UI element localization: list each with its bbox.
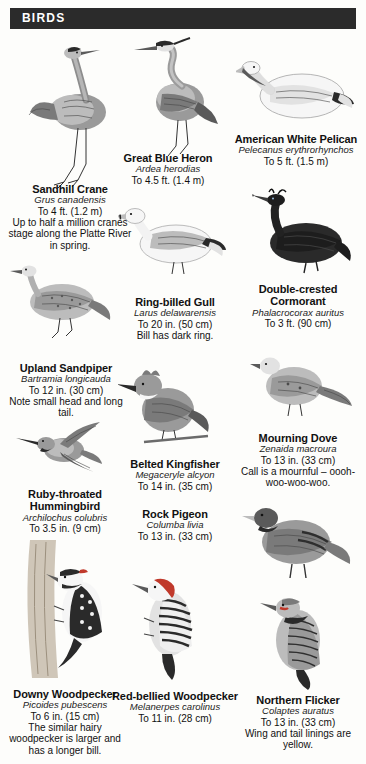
- scientific-name: Zenaida macroura: [232, 444, 364, 455]
- size-text: To 13 in. (33 cm): [232, 455, 364, 466]
- size-text: To 5 ft. (1.5 m): [228, 156, 364, 167]
- common-name: Ruby-throated Hummingbird: [2, 488, 128, 513]
- caption-ruby-throated-hummingbird: Ruby-throated Hummingbird Archilochus co…: [2, 488, 128, 534]
- great-blue-heron-illustration: [128, 36, 220, 158]
- belted-kingfisher-illustration: [118, 362, 222, 454]
- note-text: Note small head and long tail.: [2, 396, 130, 418]
- size-text: To 3 ft. (90 cm): [232, 318, 364, 329]
- size-text: To 4 ft. (1.2 m): [6, 206, 134, 217]
- caption-mourning-dove: Mourning Dove Zenaida macroura To 13 in.…: [232, 432, 364, 489]
- northern-flicker-illustration: [252, 586, 352, 692]
- size-text: To 13 in. (33 cm): [232, 717, 364, 728]
- mourning-dove-illustration: [248, 340, 354, 430]
- note-text: Call is a mournful – oooh-woo-woo-woo.: [232, 466, 364, 488]
- size-text: To 13 in. (33 cm): [112, 531, 238, 542]
- size-text: To 11 in. (28 cm): [112, 713, 238, 724]
- scientific-name: Columba livia: [112, 520, 238, 531]
- scientific-name: Bartramia longicauda: [2, 374, 130, 385]
- note-text: Wing and tail linings are yellow.: [232, 728, 364, 750]
- caption-red-bellied-woodpecker: Red-bellied Woodpecker Melanerpes caroli…: [112, 690, 238, 724]
- upland-sandpiper-illustration: [10, 250, 116, 342]
- caption-northern-flicker: Northern Flicker Colaptes auratus To 13 …: [232, 694, 364, 751]
- caption-ring-billed-gull: Ring-billed Gull Larus delawarensis To 2…: [112, 296, 238, 341]
- downy-woodpecker-illustration: [24, 540, 124, 680]
- field-guide-page: BIRDS: [0, 0, 366, 764]
- size-text: To 6 in. (15 cm): [2, 711, 128, 722]
- size-text: To 4.5 ft. (1.4 m): [112, 175, 224, 186]
- caption-upland-sandpiper: Upland Sandpiper Bartramia longicauda To…: [2, 362, 130, 419]
- scientific-name: Melanerpes carolinus: [112, 702, 238, 713]
- american-white-pelican-illustration: [236, 52, 356, 130]
- size-text: To 12 in. (30 cm): [2, 385, 130, 396]
- caption-american-white-pelican: American White Pelican Pelecanus erythro…: [228, 133, 364, 167]
- rock-pigeon-illustration: [240, 492, 360, 588]
- scientific-name: Grus canadensis: [6, 195, 134, 206]
- caption-double-crested-cormorant: Double-crested Cormorant Phalacrocorax a…: [232, 283, 364, 329]
- caption-belted-kingfisher: Belted Kingfisher Megaceryle alcyon To 1…: [112, 458, 238, 492]
- ring-billed-gull-illustration: [118, 192, 228, 282]
- caption-sandhill-crane: Sandhill Crane Grus canadensis To 4 ft. …: [6, 183, 134, 251]
- scientific-name: Ardea herodias: [112, 164, 224, 175]
- red-bellied-woodpecker-illustration: [122, 560, 220, 684]
- scientific-name: Megaceryle alcyon: [112, 470, 238, 481]
- sandhill-crane-illustration: [28, 40, 124, 190]
- scientific-name: Picoides pubescens: [2, 700, 128, 711]
- note-text: The similar hairy woodpecker is larger a…: [2, 722, 128, 756]
- caption-great-blue-heron: Great Blue Heron Ardea herodias To 4.5 f…: [112, 152, 224, 186]
- note-text: Up to half a million cranes stage along …: [6, 217, 134, 251]
- size-text: To 3.5 in. (9 cm): [2, 523, 128, 534]
- caption-downy-woodpecker: Downy Woodpecker Picoides pubescens To 6…: [2, 688, 128, 756]
- scientific-name: Larus delawarensis: [112, 308, 238, 319]
- caption-rock-pigeon: Rock Pigeon Columba livia To 13 in. (33 …: [112, 508, 238, 542]
- common-name: Double-crested Cormorant: [232, 283, 364, 308]
- scientific-name: Pelecanus erythrorhynchos: [228, 145, 364, 156]
- note-text: Bill has dark ring.: [112, 330, 238, 341]
- scientific-name: Phalacrocorax auritus: [232, 308, 364, 319]
- size-text: To 14 in. (35 cm): [112, 481, 238, 492]
- size-text: To 20 in. (50 cm): [112, 319, 238, 330]
- ruby-throated-hummingbird-illustration: [14, 410, 114, 488]
- scientific-name: Archilochus colubris: [2, 513, 128, 524]
- scientific-name: Colaptes auratus: [232, 706, 364, 717]
- double-crested-cormorant-illustration: [250, 185, 356, 277]
- page-title: BIRDS: [22, 11, 65, 25]
